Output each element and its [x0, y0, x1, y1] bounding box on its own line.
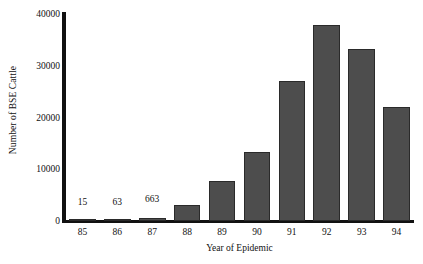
bse-cattle-bar-chart: Number of BSE Cattle 0100002000030000400… [0, 0, 423, 264]
y-tick-label: 0 [0, 216, 60, 226]
x-tick-label: 86 [113, 226, 123, 238]
plot-area: 1563663 [65, 14, 414, 221]
bar[interactable] [348, 49, 375, 221]
x-tick-label: 93 [357, 226, 367, 238]
bar-column[interactable]: 663 [139, 14, 166, 221]
bar[interactable] [244, 152, 271, 221]
bar-column[interactable] [383, 14, 410, 221]
bar-value-label: 15 [78, 197, 88, 207]
bar[interactable] [139, 218, 166, 221]
bar[interactable] [69, 219, 96, 221]
x-tick-label: 94 [392, 226, 402, 238]
bar-column[interactable]: 63 [104, 14, 131, 221]
bar-column[interactable] [174, 14, 201, 221]
bar-column[interactable]: 15 [69, 14, 96, 221]
y-tick-label: 20000 [0, 113, 60, 123]
bar[interactable] [209, 181, 236, 221]
x-tick-label: 91 [287, 226, 297, 238]
bars-container: 1563663 [65, 14, 414, 221]
bar[interactable] [383, 107, 410, 221]
x-axis-title: Year of Epidemic [65, 243, 414, 253]
y-tick-label: 30000 [0, 61, 60, 71]
bar[interactable] [279, 81, 306, 221]
bar-column[interactable] [348, 14, 375, 221]
x-tick-label: 92 [322, 226, 332, 238]
bar-column[interactable] [209, 14, 236, 221]
x-axis-tick-labels: 85868788899091929394 [65, 226, 414, 240]
bar-column[interactable] [313, 14, 340, 221]
bar[interactable] [313, 25, 340, 221]
y-tick-label: 10000 [0, 164, 60, 174]
x-tick-label: 87 [148, 226, 158, 238]
bar[interactable] [174, 205, 201, 221]
bar-column[interactable] [279, 14, 306, 221]
x-tick-label: 85 [78, 226, 88, 238]
x-tick-label: 89 [217, 226, 227, 238]
y-tick-label: 40000 [0, 9, 60, 19]
bar-value-label: 63 [113, 197, 123, 207]
bar[interactable] [104, 219, 131, 221]
bar-value-label: 663 [145, 194, 159, 204]
bar-column[interactable] [244, 14, 271, 221]
x-tick-label: 90 [252, 226, 262, 238]
x-tick-label: 88 [182, 226, 192, 238]
